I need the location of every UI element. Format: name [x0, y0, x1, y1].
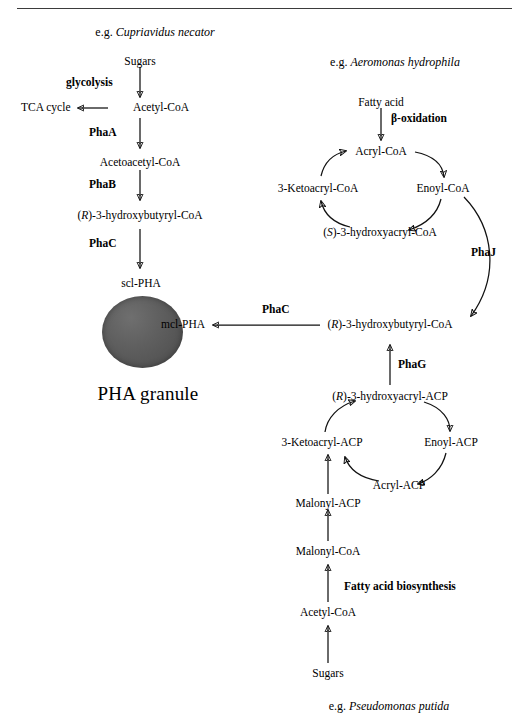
- label-mcl-pha: mcl-PHA: [161, 318, 205, 331]
- node-malonyl-coa: Malonyl-CoA: [296, 545, 361, 558]
- enzyme-phac-scl: PhaC: [89, 237, 116, 250]
- label-scl-pha: scl-PHA: [121, 277, 161, 290]
- node-r-3-hydroxybutyryl-coa-mcl: (R)-3-hydroxybutyryl-CoA: [327, 318, 452, 331]
- caption-prefix: e.g.: [329, 699, 349, 713]
- enzyme-phaj: PhaJ: [471, 246, 496, 259]
- arrow-s3hacoa-to-ketoacrylcoa: [321, 201, 350, 227]
- node-malonyl-acp: Malonyl-ACP: [295, 497, 360, 510]
- node-sugars: Sugars: [124, 55, 155, 68]
- enzyme-beta-oxidation: β-oxidation: [391, 112, 447, 125]
- node-s-3-hydroxyacryl-coa: (S)-3-hydroxyacryl-CoA: [323, 226, 437, 239]
- arrow-r3hacp-to-enoylacp: [424, 402, 450, 431]
- node-acryl-coa: Acryl-CoA: [355, 145, 407, 158]
- species-name: Aeromonas hydrophila: [350, 55, 459, 69]
- arrow-acrylacp-to-ketoacrylacp: [345, 457, 379, 481]
- node-suffix: )-3-hydroxyacryl-ACP: [343, 390, 448, 402]
- caption-prefix: e.g.: [330, 55, 350, 69]
- enzyme-glycolysis: glycolysis: [66, 76, 113, 89]
- node-suffix: )-3-hydroxybutyryl-CoA: [88, 209, 202, 221]
- node-sugars-fab: Sugars: [312, 667, 343, 680]
- node-suffix: )-3-hydroxybutyryl-CoA: [338, 318, 452, 330]
- caption-pseudomonas-putida: e.g. Pseudomonas putida: [329, 700, 450, 713]
- label-pha-granule: PHA granule: [98, 387, 199, 400]
- node-acetoacetyl-coa: Acetoacetyl-CoA: [100, 156, 180, 169]
- enzyme-phac-mcl: PhaC: [262, 303, 289, 316]
- enzyme-phab: PhaB: [89, 178, 116, 191]
- species-name: Pseudomonas putida: [349, 699, 449, 713]
- node-r-3-hydroxyacryl-acp: (R)-3-hydroxyacryl-ACP: [332, 390, 448, 403]
- pathway-figure: e.g. Cupriavidus necator Sugars glycolys…: [0, 0, 525, 727]
- caption-aeromonas-hydrophila: e.g. Aeromonas hydrophila: [330, 56, 460, 69]
- node-suffix: )-3-hydroxyacryl-CoA: [333, 226, 437, 238]
- arrow-layer: [0, 0, 525, 727]
- node-acetyl-coa-fab: Acetyl-CoA: [300, 606, 356, 619]
- node-acryl-acp: Acryl-ACP: [373, 479, 425, 492]
- node-3-ketoacryl-acp: 3-Ketoacryl-ACP: [281, 436, 362, 449]
- pha-granule-sphere: [102, 296, 183, 368]
- species-name: Cupriavidus necator: [116, 25, 215, 39]
- arrow-ketoacrylacp-to-r3hacp: [325, 401, 355, 432]
- node-enoyl-coa: Enoyl-CoA: [416, 182, 469, 195]
- node-tca-cycle: TCA cycle: [21, 101, 71, 114]
- enzyme-fatty-acid-biosynthesis: Fatty acid biosynthesis: [344, 580, 456, 593]
- node-r-3-hydroxybutyryl-coa: (R)-3-hydroxybutyryl-CoA: [77, 209, 202, 222]
- stereo-r: R: [331, 318, 338, 330]
- caption-cupriavidus-necator: e.g. Cupriavidus necator: [95, 26, 214, 39]
- node-3-ketoacryl-coa: 3-Ketoacryl-CoA: [278, 182, 358, 195]
- enzyme-phaa: PhaA: [89, 126, 116, 139]
- caption-prefix: e.g.: [95, 25, 115, 39]
- arrow-acrylcoa-to-enoylcoa: [415, 152, 444, 177]
- node-enoyl-acp: Enoyl-ACP: [424, 436, 478, 449]
- node-acetyl-coa: Acetyl-CoA: [133, 101, 189, 114]
- enzyme-phag: PhaG: [398, 358, 426, 371]
- stereo-r: R: [336, 390, 343, 402]
- stereo-r: R: [81, 209, 88, 221]
- node-fatty-acid: Fatty acid: [358, 96, 404, 109]
- arrow-ketoacrylcoa-to-acrylcoa: [321, 151, 346, 176]
